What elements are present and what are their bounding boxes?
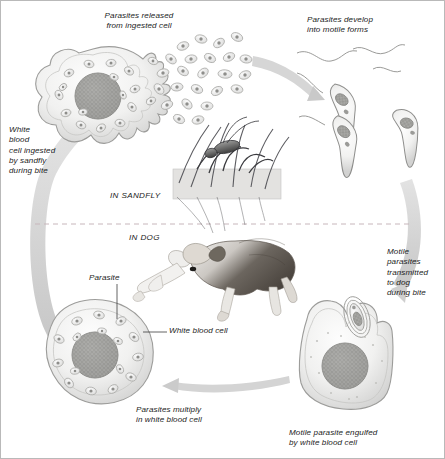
label-parasites-multiply: Parasites multiply in white blood cell xyxy=(136,405,256,426)
label-motile-transmitted: Motile parasites transmitted to dog duri… xyxy=(387,247,445,298)
section-label-in-dog: IN DOG xyxy=(129,233,160,243)
life-cycle-diagram: Parasites released from ingested cell Pa… xyxy=(0,0,445,459)
label-parasites-develop: Parasites develop into motile forms xyxy=(307,15,427,36)
callout-leader-lines xyxy=(1,1,445,459)
label-motile-engulfed: Motile parasite engulfed by white blood … xyxy=(289,428,439,449)
section-label-in-sandfly: IN SANDFLY xyxy=(110,191,160,201)
label-parasites-released: Parasites released from ingested cell xyxy=(79,11,199,32)
callout-white-blood-cell: White blood cell xyxy=(169,326,228,336)
callout-parasite: Parasite xyxy=(89,273,120,283)
label-white-blood-cell-ingested: White blood cell ingested by sandfly dur… xyxy=(9,125,79,176)
